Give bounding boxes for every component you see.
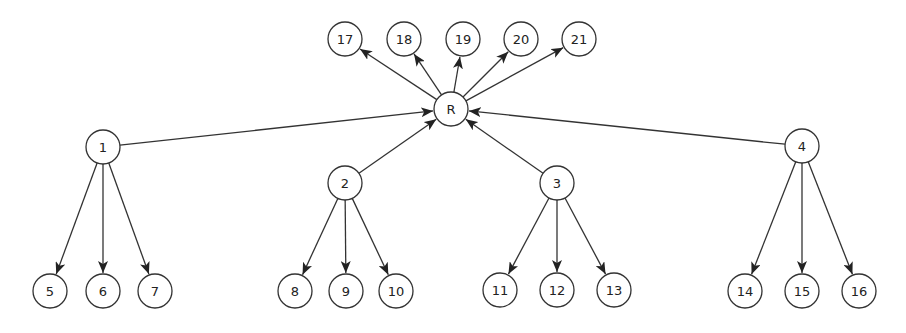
node-label: 15 bbox=[794, 284, 811, 299]
node-label: 13 bbox=[606, 283, 623, 298]
node-14: 14 bbox=[728, 274, 762, 308]
node-label: 19 bbox=[455, 32, 472, 47]
node-label: 1 bbox=[99, 140, 107, 155]
node-label: 9 bbox=[342, 284, 350, 299]
node-label: 4 bbox=[798, 139, 806, 154]
node-19: 19 bbox=[446, 22, 480, 56]
node-16: 16 bbox=[842, 274, 876, 308]
edge-1-to-5 bbox=[56, 163, 97, 274]
edge-3-to-11 bbox=[508, 198, 549, 274]
edge-R-to-18 bbox=[414, 54, 441, 95]
edge-1-to-7 bbox=[109, 163, 149, 274]
node-21: 21 bbox=[562, 22, 596, 56]
edge-4-to-16 bbox=[808, 162, 852, 274]
node-3: 3 bbox=[540, 166, 574, 200]
node-label: 7 bbox=[151, 284, 159, 299]
node-20: 20 bbox=[504, 22, 538, 56]
node-7: 7 bbox=[138, 274, 172, 308]
edge-R-to-21 bbox=[466, 48, 563, 101]
node-label: 10 bbox=[388, 284, 405, 299]
node-17: 17 bbox=[328, 22, 362, 56]
edge-3-to-R bbox=[466, 119, 543, 173]
node-label: R bbox=[446, 102, 455, 117]
node-label: 16 bbox=[851, 284, 868, 299]
node-label: 18 bbox=[396, 32, 413, 47]
node-label: 11 bbox=[492, 283, 509, 298]
node-label: 6 bbox=[99, 284, 107, 299]
node-10: 10 bbox=[379, 274, 413, 308]
node-12: 12 bbox=[540, 273, 574, 307]
node-label: 8 bbox=[291, 284, 299, 299]
node-label: 5 bbox=[46, 284, 54, 299]
edge-3-to-13 bbox=[565, 198, 606, 274]
node-5: 5 bbox=[33, 274, 67, 308]
node-2: 2 bbox=[328, 166, 362, 200]
edge-2-to-R bbox=[359, 119, 436, 173]
nodes-layer: R171819202112345678910111213141516 bbox=[33, 22, 876, 308]
edge-4-to-14 bbox=[752, 162, 796, 274]
node-label: 21 bbox=[571, 32, 588, 47]
node-label: 12 bbox=[549, 283, 566, 298]
node-label: 14 bbox=[737, 284, 754, 299]
edge-2-to-8 bbox=[303, 198, 338, 274]
node-label: 20 bbox=[513, 32, 530, 47]
node-8: 8 bbox=[278, 274, 312, 308]
edge-2-to-9 bbox=[345, 200, 346, 273]
node-label: 3 bbox=[553, 176, 561, 191]
node-11: 11 bbox=[483, 273, 517, 307]
node-4: 4 bbox=[785, 129, 819, 163]
edge-4-to-R bbox=[469, 111, 785, 144]
edge-R-to-19 bbox=[454, 57, 460, 93]
node-R: R bbox=[434, 92, 468, 126]
node-15: 15 bbox=[785, 274, 819, 308]
node-6: 6 bbox=[86, 274, 120, 308]
edge-R-to-17 bbox=[360, 49, 437, 100]
edge-2-to-10 bbox=[352, 198, 388, 274]
tree-diagram: R171819202112345678910111213141516 bbox=[0, 0, 906, 333]
node-18: 18 bbox=[387, 22, 421, 56]
edges-layer bbox=[56, 48, 852, 275]
node-label: 17 bbox=[337, 32, 354, 47]
node-9: 9 bbox=[329, 274, 363, 308]
node-13: 13 bbox=[597, 273, 631, 307]
node-label: 2 bbox=[341, 176, 349, 191]
edge-1-to-R bbox=[120, 111, 433, 145]
node-1: 1 bbox=[86, 130, 120, 164]
